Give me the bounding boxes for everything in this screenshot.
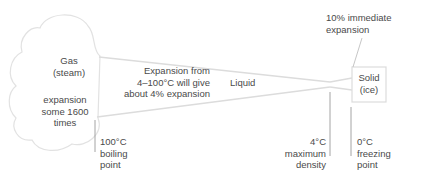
solid-note-leader — [353, 38, 362, 67]
solid-subtitle: (ice) — [352, 84, 386, 96]
gas-cloud-shape — [9, 15, 100, 150]
gas-subtitle: (steam) — [34, 67, 104, 79]
liquid-label: Liquid — [230, 77, 255, 89]
gas-note: expansion some 1600 times — [30, 94, 100, 129]
gas-label: Gas (steam) — [34, 55, 104, 78]
solid-bottom-edge — [330, 87, 352, 90]
solid-title: Solid — [352, 72, 386, 84]
freezing-point-label: 0°C freezing point — [357, 136, 391, 171]
solid-top-edge — [330, 78, 352, 82]
gas-title: Gas — [34, 55, 104, 67]
solid-label: Solid (ice) — [352, 72, 386, 95]
solid-note: 10% immediate expansion — [326, 12, 391, 35]
liquid-note: Expansion from 4–100°C will give about 4… — [110, 65, 210, 100]
boiling-point-label: 100°C boiling point — [100, 136, 127, 171]
max-density-label: 4°C maximum density — [266, 136, 326, 171]
